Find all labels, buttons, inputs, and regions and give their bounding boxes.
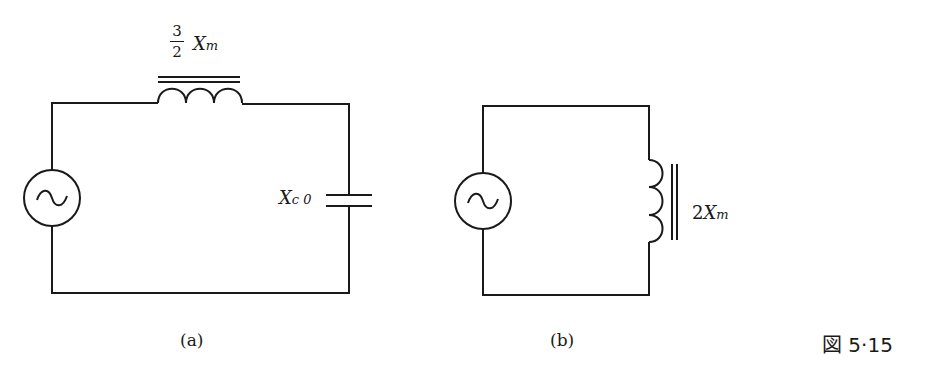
fraction-bar	[170, 41, 184, 42]
inductor-a-coil	[158, 89, 242, 103]
inductor-b-coil	[649, 160, 663, 242]
caption-b: (b)	[550, 330, 574, 350]
symbol-x: X	[193, 33, 206, 54]
circuit-diagrams	[0, 0, 934, 374]
inductor-a-coefficient: 3 2	[170, 22, 184, 61]
sine-wave-b-icon	[468, 194, 498, 209]
coef-numerator: 3	[172, 22, 182, 40]
circuit-b	[455, 106, 677, 295]
wire-b-left-top	[483, 106, 649, 173]
wire-a-right-bottom	[52, 206, 349, 293]
inductor-b-label: 2Xm	[692, 202, 729, 223]
subscript-c0: c 0	[292, 192, 312, 207]
figure: 3 2 Xm Xc 0 (a) 2Xm (b) 図 5·15	[0, 0, 934, 374]
wire-a-top-right	[242, 104, 349, 195]
circuit-a	[24, 77, 372, 293]
caption-a: (a)	[180, 330, 203, 350]
subscript-m: m	[716, 207, 728, 222]
sine-wave-a-icon	[37, 191, 67, 206]
symbol-x: X	[703, 202, 716, 223]
capacitor-a-label: Xc 0	[279, 187, 312, 208]
figure-number: 図 5·15	[822, 329, 893, 358]
inductor-a-label: Xm	[193, 33, 218, 54]
subscript-m: m	[206, 38, 218, 53]
wire-a-left-top	[52, 103, 158, 170]
symbol-x: X	[279, 187, 292, 208]
wire-b-right-bottom	[483, 229, 649, 295]
coefficient: 2	[692, 202, 703, 223]
coef-denominator: 2	[172, 43, 182, 61]
